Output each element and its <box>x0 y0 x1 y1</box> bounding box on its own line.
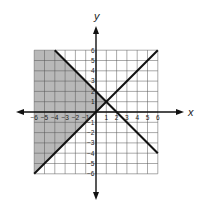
y-tick-label: −2 <box>87 129 95 136</box>
x-tick-label: −5 <box>41 114 49 121</box>
x-tick-label: 4 <box>135 114 139 121</box>
y-tick-label: −3 <box>87 139 95 146</box>
y-tick-label: 3 <box>91 77 95 84</box>
y-tick-label: −6 <box>87 170 95 177</box>
y-tick-label: 4 <box>91 67 95 74</box>
x-tick-label: −6 <box>30 114 38 121</box>
y-tick-label: 5 <box>91 57 95 64</box>
y-axis-label: y <box>93 10 101 22</box>
x-tick-label: −2 <box>72 114 80 121</box>
x-axis-label: x <box>187 106 194 118</box>
x-tick-label: 1 <box>104 114 108 121</box>
x-tick-label: 3 <box>125 114 129 121</box>
x-tick-label: 2 <box>115 114 119 121</box>
x-arrow-right-icon <box>176 109 184 115</box>
x-tick-label: −3 <box>61 114 69 121</box>
x-tick-label: −4 <box>51 114 59 121</box>
y-tick-label: −4 <box>87 150 95 157</box>
y-tick-label: 2 <box>91 88 95 95</box>
y-arrow-down-icon <box>93 192 99 200</box>
x-tick-label: 6 <box>156 114 160 121</box>
x-tick-label: 5 <box>146 114 150 121</box>
x-arrow-left-icon <box>16 109 24 115</box>
y-tick-label: 6 <box>91 47 95 54</box>
y-tick-label: −1 <box>87 119 95 126</box>
y-tick-label: −5 <box>87 160 95 167</box>
y-tick-label: 1 <box>91 98 95 105</box>
coordinate-plane: −6−5−4−3−2−1123456654321−1−2−3−4−5−6 x y <box>0 0 204 204</box>
y-arrow-up-icon <box>93 26 99 34</box>
